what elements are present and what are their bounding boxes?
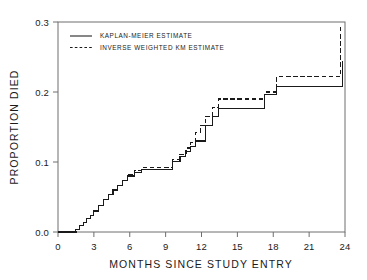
y-axis-ticks: 0.00.10.20.3 <box>35 17 58 238</box>
x-axis-ticks: 03691215182124 <box>55 232 350 252</box>
y-tick-label: 0.0 <box>35 227 49 238</box>
series-line <box>58 61 343 233</box>
x-tick-label: 3 <box>91 241 96 252</box>
x-axis-title: MONTHS SINCE STUDY ENTRY <box>109 258 293 270</box>
x-tick-label: 21 <box>304 241 315 252</box>
x-tick-label: 24 <box>340 241 351 252</box>
legend-label: INVERSE WEIGHTED KM ESTIMATE <box>100 44 224 51</box>
x-tick-label: 15 <box>232 241 243 252</box>
series-line <box>58 26 340 233</box>
legend-label: KAPLAN-MEIER ESTIMATE <box>100 32 192 39</box>
survival-curve-chart: 03691215182124 0.00.10.20.3 KAPLAN-MEIER… <box>0 0 367 280</box>
chart-canvas: 03691215182124 0.00.10.20.3 KAPLAN-MEIER… <box>0 0 367 280</box>
x-tick-label: 0 <box>55 241 60 252</box>
x-tick-label: 6 <box>127 241 132 252</box>
x-tick-label: 12 <box>196 241 207 252</box>
chart-legend: KAPLAN-MEIER ESTIMATEINVERSE WEIGHTED KM… <box>70 32 224 51</box>
y-tick-label: 0.1 <box>35 157 49 168</box>
x-tick-label: 9 <box>163 241 168 252</box>
plot-border <box>58 22 345 232</box>
series-layer <box>58 26 343 233</box>
plot-frame <box>58 22 345 232</box>
y-tick-label: 0.3 <box>35 17 49 28</box>
x-tick-label: 18 <box>268 241 279 252</box>
y-tick-label: 0.2 <box>35 87 49 98</box>
y-axis-title: PROPORTION DIED <box>8 70 20 185</box>
